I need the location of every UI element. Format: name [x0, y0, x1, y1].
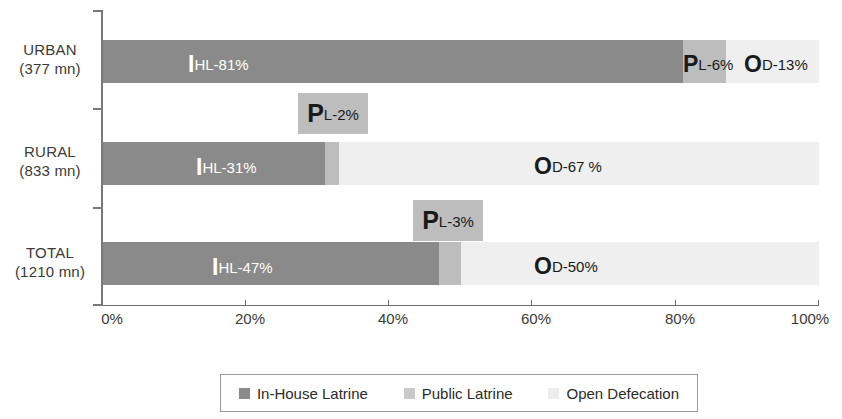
legend-item-in-house-latrine[interactable]: In-House Latrine — [239, 385, 368, 402]
category-label-rural: RURAL (833 mn) — [4, 142, 96, 180]
bar-total — [103, 242, 819, 285]
x-axis-label-40: 40% — [378, 310, 408, 327]
bar-total-label-open-defecation-text: D-50% — [552, 258, 598, 275]
y-axis-tick-top — [93, 10, 102, 12]
legend-swatch-public-latrine — [404, 388, 415, 399]
x-axis-tick-0 — [102, 300, 103, 306]
category-label-total: TOTAL (1210 mn) — [4, 243, 96, 281]
x-axis-tick-20 — [245, 300, 246, 306]
legend-item-open-defecation[interactable]: Open Defecation — [548, 385, 679, 402]
category-label-rural-name: RURAL — [4, 142, 96, 161]
x-axis-tick-60 — [531, 300, 532, 306]
callout-total-public-latrine-value: L-3% — [439, 213, 474, 230]
category-label-total-name: TOTAL — [4, 243, 96, 262]
bar-urban-label-public-latrine-text: L-6% — [698, 56, 733, 73]
bar-total-label-in-house-latrine: IHL-47% — [212, 256, 273, 279]
legend-label-open-defecation: Open Defecation — [566, 385, 679, 402]
y-axis-tick-rural-total — [93, 207, 102, 209]
bar-rural-segment-public-latrine — [325, 142, 339, 185]
x-axis-label-100: 100% — [791, 310, 829, 327]
bar-rural-label-open-defecation-text: D-67 % — [552, 158, 602, 175]
bar-urban-label-open-defecation-text: D-13% — [762, 56, 808, 73]
callout-rural-public-latrine-text: PL-2% — [307, 101, 359, 126]
callout-total-public-latrine: PL-3% — [413, 200, 483, 241]
legend: In-House Latrine Public Latrine Open Def… — [220, 374, 698, 412]
x-axis-label-0: 0% — [101, 310, 123, 327]
bar-rural-label-open-defecation: OD-67 % — [534, 155, 602, 178]
callout-rural-public-latrine: PL-2% — [298, 93, 368, 134]
bar-urban-label-in-house-latrine-text: HL-81% — [194, 56, 248, 73]
bar-urban-label-public-latrine: PL-6% — [683, 53, 733, 76]
category-label-rural-population: (833 mn) — [4, 161, 96, 180]
legend-label-public-latrine: Public Latrine — [422, 385, 513, 402]
bar-rural-label-in-house-latrine-text: HL-31% — [202, 159, 256, 176]
callout-total-public-latrine-text: PL-3% — [422, 208, 474, 233]
x-axis-tick-100 — [818, 300, 819, 306]
bar-total-label-open-defecation-initial: O — [534, 253, 552, 279]
bar-rural-label-open-defecation-initial: O — [534, 153, 552, 179]
bar-urban-label-open-defecation: OD-13% — [744, 53, 808, 76]
x-axis-label-60: 60% — [521, 310, 551, 327]
x-axis-tick-40 — [388, 300, 389, 306]
legend-swatch-in-house-latrine — [239, 388, 250, 399]
category-label-urban-population: (377 mn) — [4, 59, 96, 78]
callout-rural-public-latrine-initial: P — [307, 99, 324, 127]
category-label-urban-name: URBAN — [4, 40, 96, 59]
legend-item-public-latrine[interactable]: Public Latrine — [404, 385, 513, 402]
callout-rural-public-latrine-value: L-2% — [324, 106, 359, 123]
legend-label-in-house-latrine: In-House Latrine — [257, 385, 368, 402]
y-axis-tick-urban-rural — [93, 108, 102, 110]
x-axis-label-80: 80% — [665, 310, 695, 327]
legend-swatch-open-defecation — [548, 388, 559, 399]
stacked-bar-chart: URBAN (377 mn) RURAL (833 mn) TOTAL (121… — [0, 0, 842, 419]
bar-total-segment-public-latrine — [439, 242, 461, 285]
x-axis-label-20: 20% — [235, 310, 265, 327]
bar-urban-label-public-latrine-initial: P — [683, 51, 698, 77]
bar-urban-label-open-defecation-initial: O — [744, 51, 762, 77]
y-axis-tick-bottom — [93, 304, 102, 306]
category-label-total-population: (1210 mn) — [4, 262, 96, 281]
bar-urban-label-in-house-latrine: IHL-81% — [188, 53, 249, 76]
bar-rural-label-in-house-latrine: IHL-31% — [196, 156, 257, 179]
x-axis-tick-80 — [675, 300, 676, 306]
bar-total-label-in-house-latrine-text: HL-47% — [218, 259, 272, 276]
bar-total-label-open-defecation: OD-50% — [534, 255, 598, 278]
bar-total-segment-open-defecation — [461, 242, 819, 285]
category-label-urban: URBAN (377 mn) — [4, 40, 96, 78]
callout-total-public-latrine-initial: P — [422, 206, 439, 234]
x-axis-line — [101, 305, 819, 306]
